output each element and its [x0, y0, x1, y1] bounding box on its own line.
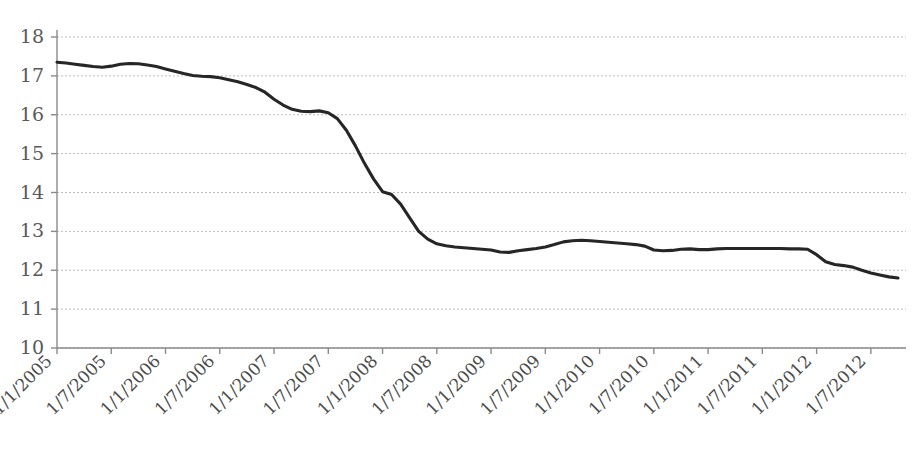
y-tick-label: 12 [20, 258, 44, 280]
y-tick-label: 16 [20, 103, 44, 125]
line-chart: 101112131415161718 1/1/20051/7/20051/1/2… [0, 0, 913, 457]
y-axis-labels: 101112131415161718 [20, 25, 44, 358]
gridlines [57, 37, 906, 348]
y-tick-label: 15 [20, 142, 44, 164]
chart-canvas: 101112131415161718 1/1/20051/7/20051/1/2… [0, 0, 913, 457]
x-axis-labels: 1/1/20051/7/20051/1/20061/7/20061/1/2007… [0, 351, 870, 419]
chart-title-cropped [0, 0, 913, 10]
y-tick-label: 14 [20, 181, 44, 203]
y-tick-label: 18 [20, 25, 44, 47]
y-tick-label: 11 [20, 297, 44, 319]
data-series-line [57, 62, 898, 278]
axis-ticks [51, 37, 871, 354]
y-tick-label: 13 [20, 219, 44, 241]
x-tick-label: 1/7/2012 [802, 351, 870, 419]
y-tick-label: 17 [20, 64, 44, 86]
